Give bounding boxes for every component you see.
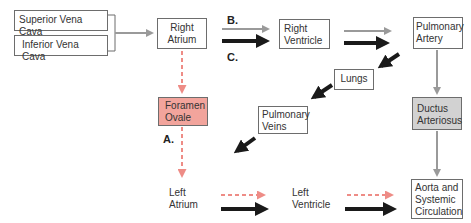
node-right-ventricle: Right Ventricle [279, 19, 330, 49]
node-aorta-systemic: Aorta and Systemic Circulation [411, 179, 463, 219]
vena-cava-bracket [108, 15, 152, 51]
arrow-pv-la [237, 138, 255, 151]
node-pulmonary-veins: Pulmonary Veins [258, 106, 308, 134]
node-superior-vena-cava: Superior Vena Cava [14, 10, 108, 31]
label-a: A. [163, 133, 174, 145]
node-ductus-arteriosus: Ductus Arteriosus [412, 97, 462, 130]
node-left-ventricle: Left Ventricle [292, 187, 330, 211]
node-left-atrium: Left Atrium [169, 187, 198, 211]
label-c: C. [227, 51, 238, 63]
node-lungs: Lungs [334, 69, 374, 90]
label-b: B. [227, 14, 238, 26]
node-pulmonary-artery: Pulmonary Artery [413, 17, 463, 49]
arrow-lungs-pv [314, 85, 332, 97]
node-foramen-ovale: Foramen Ovale [158, 97, 208, 126]
arrow-pa-lungs [381, 54, 399, 66]
node-inferior-vena-cava: Inferior Vena Cava [14, 35, 108, 56]
arrows-layer [0, 0, 471, 223]
node-right-atrium: Right Atrium [157, 18, 207, 49]
